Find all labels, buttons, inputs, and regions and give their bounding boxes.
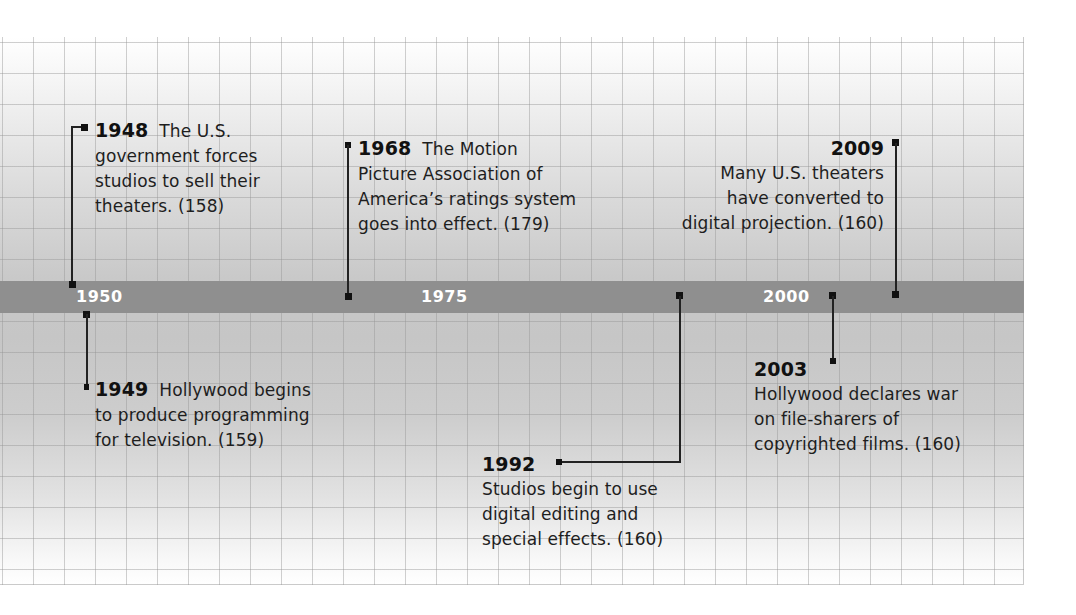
- axis-label-1975: 1975: [421, 287, 468, 306]
- event-1968: 1968 The Motion Picture Association of A…: [358, 136, 618, 237]
- marker-square-icon: [345, 293, 352, 300]
- event-1949: 1949 Hollywood begins to produce program…: [95, 377, 355, 453]
- event-text-line: digital editing and: [482, 502, 712, 527]
- event-text-line: theaters. (158): [95, 194, 325, 219]
- event-text-line: America’s ratings system: [358, 187, 618, 212]
- event-text-line: on file-sharers of: [754, 407, 1014, 432]
- event-2003: 2003 Hollywood declares war on file-shar…: [754, 357, 1014, 457]
- connector-line: [832, 296, 834, 362]
- marker-square-icon: [81, 124, 88, 131]
- event-1948: 1948 The U.S. government forces studios …: [95, 118, 325, 219]
- event-text-line: digital projection. (160): [620, 211, 884, 236]
- event-text-line: Hollywood declares war: [754, 382, 1014, 407]
- connector-line: [895, 143, 897, 293]
- event-text-line: government forces: [95, 144, 325, 169]
- event-text-line: have converted to: [620, 186, 884, 211]
- event-1992: 1992 Studios begin to use digital editin…: [482, 452, 712, 552]
- event-text-line: copyrighted films. (160): [754, 432, 1014, 457]
- connector-line: [86, 314, 88, 387]
- axis-label-1950: 1950: [76, 287, 123, 306]
- event-text-line: Many U.S. theaters: [620, 161, 884, 186]
- event-text-line: goes into effect. (179): [358, 212, 618, 237]
- event-year: 1949: [95, 378, 148, 400]
- marker-square-icon: [84, 384, 89, 390]
- event-year: 1968: [358, 137, 411, 159]
- connector-line: [347, 145, 349, 296]
- event-text-line: special effects. (160): [482, 527, 712, 552]
- timeline-bar: [0, 281, 1024, 313]
- connector-line: [71, 127, 73, 284]
- marker-square-icon: [69, 281, 76, 288]
- event-text-line: studios to sell their: [95, 169, 325, 194]
- marker-square-icon: [892, 291, 899, 298]
- event-text-line: to produce programming: [95, 403, 355, 428]
- event-year: 1948: [95, 119, 148, 141]
- event-year: 2003: [754, 357, 1014, 382]
- event-text-line: Picture Association of: [358, 162, 618, 187]
- event-2009: 2009 Many U.S. theaters have converted t…: [620, 136, 884, 236]
- axis-label-2000: 2000: [763, 287, 810, 306]
- event-text-line: for television. (159): [95, 428, 355, 453]
- event-year: 1992: [482, 452, 712, 477]
- connector-line: [679, 296, 681, 462]
- event-text-line: The Motion: [422, 139, 518, 159]
- event-text-line: The U.S.: [159, 121, 231, 141]
- event-year: 2009: [620, 136, 884, 161]
- event-text-line: Hollywood begins: [159, 380, 311, 400]
- event-text-line: Studios begin to use: [482, 477, 712, 502]
